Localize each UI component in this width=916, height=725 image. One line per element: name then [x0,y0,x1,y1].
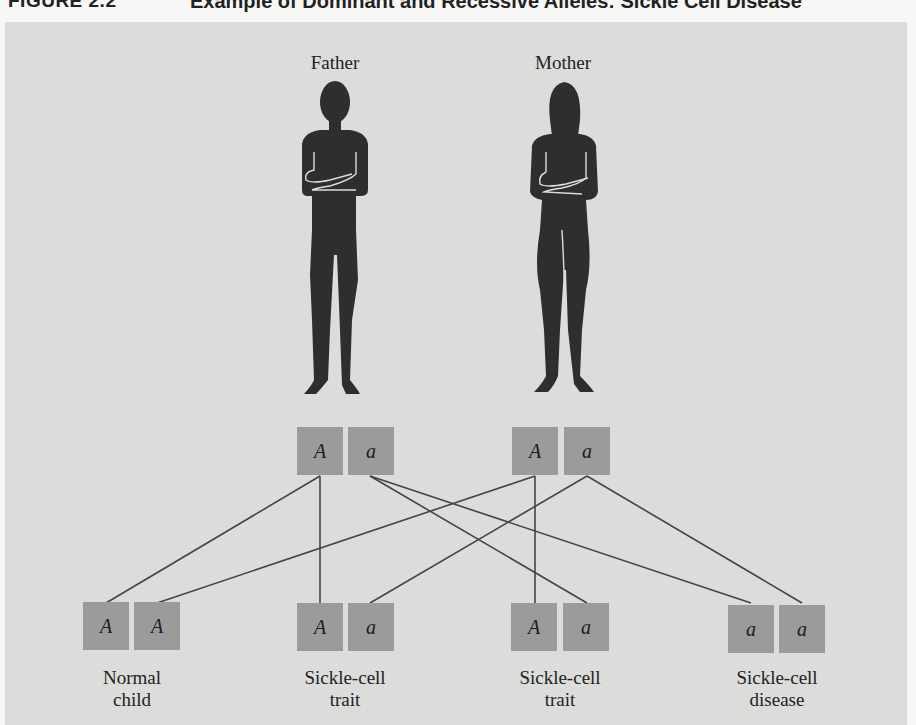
child1-label-line2: child [52,689,212,711]
child4-label-line2: disease [697,689,857,711]
child4-allele-2: a [779,605,825,653]
child3-label: Sickle-cell trait [480,667,640,711]
child3-allele-1: A [511,603,557,651]
mother-allele-1: A [512,427,558,475]
father-allele-1: A [297,427,343,475]
child1-allele-2: A [134,602,180,650]
child2-label: Sickle-cell trait [265,667,425,711]
child1-allele-1: A [83,602,129,650]
mother-allele-2: a [564,427,610,475]
child2-label-line2: trait [265,689,425,711]
child2-allele-1: A [297,603,343,651]
child2-allele-2: a [348,603,394,651]
child4-label: Sickle-cell disease [697,667,857,711]
child3-label-line2: trait [480,689,640,711]
child3-label-line1: Sickle-cell [480,667,640,689]
child2-label-line1: Sickle-cell [265,667,425,689]
child3-allele-2: a [563,603,609,651]
child1-label: Normal child [52,667,212,711]
child1-label-line1: Normal [52,667,212,689]
child4-label-line1: Sickle-cell [697,667,857,689]
father-allele-2: a [348,427,394,475]
child4-allele-1: a [728,605,774,653]
